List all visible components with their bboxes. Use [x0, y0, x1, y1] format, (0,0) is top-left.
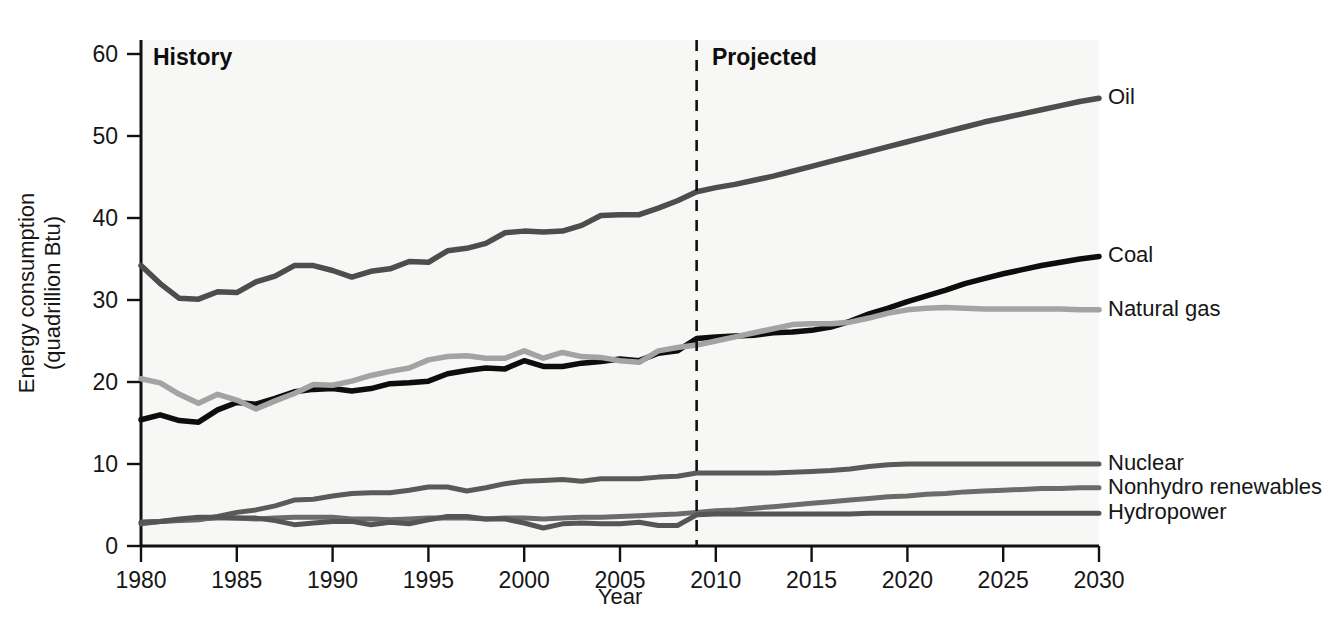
x-tick-label: 2030: [1073, 567, 1124, 593]
projected-label: Projected: [712, 44, 817, 70]
x-tick-label: 2025: [978, 567, 1029, 593]
series-label-coal: Coal: [1108, 242, 1153, 267]
chart-canvas: 0102030405060 19801985199019952000200520…: [0, 0, 1330, 632]
x-tick-label: 2020: [882, 567, 933, 593]
series-label-nuclear: Nuclear: [1108, 450, 1184, 475]
x-tick-label: 2000: [499, 567, 550, 593]
x-tick-label: 2010: [690, 567, 741, 593]
y-tick-label: 40: [92, 205, 118, 231]
y-axis-ticks: 0102030405060: [92, 41, 141, 559]
x-tick-label: 1995: [403, 567, 454, 593]
series-label-natural-gas: Natural gas: [1108, 296, 1221, 321]
y-tick-label: 60: [92, 41, 118, 67]
y-axis-title-line1: Energy consumption: [14, 193, 39, 394]
y-axis-title-line2: (quadrillion Btu): [40, 216, 65, 370]
y-tick-label: 50: [92, 123, 118, 149]
energy-consumption-chart-figure: 0102030405060 19801985199019952000200520…: [0, 0, 1330, 632]
y-tick-label: 20: [92, 369, 118, 395]
y-tick-label: 10: [92, 451, 118, 477]
series-end-labels: OilCoalNatural gasNuclearNonhydro renewa…: [1108, 84, 1322, 524]
x-tick-label: 1980: [115, 567, 166, 593]
series-label-oil: Oil: [1108, 84, 1135, 109]
y-tick-label: 30: [92, 287, 118, 313]
x-tick-label: 2015: [786, 567, 837, 593]
plot-background: [141, 40, 1099, 546]
x-tick-label: 1985: [211, 567, 262, 593]
x-axis-title: Year: [598, 584, 642, 609]
history-label: History: [153, 44, 232, 70]
series-label-nonhydro-renewables: Nonhydro renewables: [1108, 474, 1322, 499]
series-label-hydropower: Hydropower: [1108, 499, 1227, 524]
y-tick-label: 0: [105, 533, 118, 559]
x-tick-label: 1990: [307, 567, 358, 593]
